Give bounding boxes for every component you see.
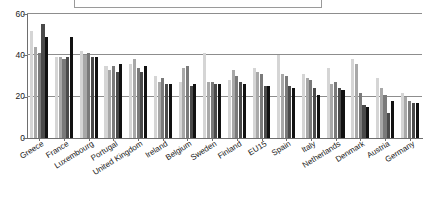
bar	[334, 82, 337, 138]
bar	[30, 31, 33, 138]
bar	[253, 68, 256, 138]
bar	[359, 93, 362, 138]
bar	[239, 82, 242, 138]
plot-area	[27, 14, 422, 138]
bar	[228, 80, 231, 138]
bar	[116, 72, 119, 138]
bar-group	[104, 14, 122, 138]
bar	[281, 74, 284, 138]
bar	[383, 95, 386, 138]
bar	[91, 57, 94, 138]
bar	[59, 57, 62, 138]
bar	[366, 107, 369, 138]
bar-group	[277, 14, 295, 138]
bar	[179, 82, 182, 138]
bar	[387, 113, 390, 138]
bar	[362, 105, 365, 138]
bar	[104, 66, 107, 138]
bar-group	[401, 14, 419, 138]
bar	[285, 76, 288, 138]
bar-group	[302, 14, 320, 138]
bar	[277, 55, 280, 138]
bar	[401, 93, 404, 138]
bar	[38, 53, 41, 138]
bar	[137, 68, 140, 138]
bar-group	[154, 14, 172, 138]
y-tick-label-60: 60	[3, 10, 25, 19]
bar-group	[351, 14, 369, 138]
bar	[218, 84, 221, 138]
y-tick-label-40: 40	[3, 51, 25, 60]
bar	[211, 82, 214, 138]
bar	[408, 101, 411, 138]
bar	[108, 70, 111, 138]
bar	[391, 101, 394, 138]
y-tick-label-0: 0	[3, 134, 25, 143]
bar	[70, 37, 73, 138]
bar-group	[253, 14, 271, 138]
bar	[182, 68, 185, 138]
bar	[34, 47, 37, 138]
bar	[412, 103, 415, 138]
bar-group	[80, 14, 98, 138]
bar	[341, 90, 344, 138]
bar-group	[30, 14, 48, 138]
bar-chart: 0204060 GreeceFranceLuxembourgPortugalUn…	[0, 0, 434, 204]
bar	[317, 95, 320, 138]
bar	[112, 66, 115, 138]
bar	[169, 84, 172, 138]
bar-group	[179, 14, 197, 138]
bar	[41, 24, 44, 138]
bar	[338, 88, 341, 138]
bar	[165, 84, 168, 138]
bar	[203, 53, 206, 138]
bar	[256, 72, 259, 138]
bar-group	[203, 14, 221, 138]
bar-group	[327, 14, 345, 138]
bar	[144, 66, 147, 138]
bar	[302, 74, 305, 138]
bar	[154, 76, 157, 138]
bar	[45, 37, 48, 138]
bar	[267, 86, 270, 138]
bar	[288, 86, 291, 138]
bar	[235, 76, 238, 138]
bar	[55, 57, 58, 138]
bar	[119, 64, 122, 138]
x-axis-category-labels: GreeceFranceLuxembourgPortugalUnited Kin…	[27, 140, 422, 204]
bar	[186, 66, 189, 138]
bar	[87, 53, 90, 138]
bar	[95, 57, 98, 138]
bar	[404, 97, 407, 138]
bar	[260, 74, 263, 138]
bar	[306, 78, 309, 138]
bar	[161, 78, 164, 138]
bar	[62, 59, 65, 138]
bar	[129, 64, 132, 138]
x-axis-line	[27, 138, 423, 139]
bar	[416, 103, 419, 138]
bar	[232, 70, 235, 138]
y-tick-label-20: 20	[3, 92, 25, 101]
bar	[292, 88, 295, 138]
bar	[355, 64, 358, 138]
bar	[207, 82, 210, 138]
bar-group	[129, 14, 147, 138]
bar	[309, 80, 312, 138]
bar	[83, 55, 86, 138]
bar	[158, 82, 161, 138]
bar	[133, 59, 136, 138]
bar	[193, 84, 196, 138]
bar	[327, 68, 330, 138]
bar-group	[228, 14, 246, 138]
bar	[313, 88, 316, 138]
legend-box	[74, 0, 322, 8]
bar	[264, 86, 267, 138]
bar	[380, 88, 383, 138]
bar	[80, 51, 83, 138]
bar-group	[376, 14, 394, 138]
bar	[66, 57, 69, 138]
bar	[330, 84, 333, 138]
bar	[376, 78, 379, 138]
bar	[190, 86, 193, 138]
